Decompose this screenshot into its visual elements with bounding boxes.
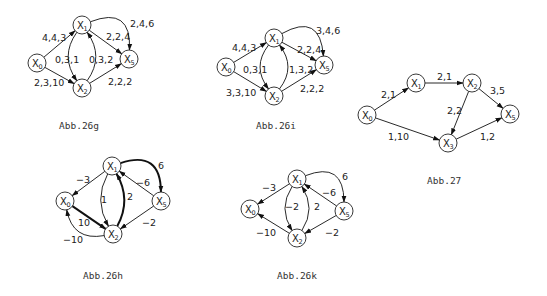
node-x0: X0: [217, 58, 235, 76]
edge-weight-label: 2,2,2: [300, 83, 324, 94]
node-subscript: 5: [512, 114, 516, 122]
edge-weight-label: 2,2,4: [297, 44, 321, 55]
edge-weight-label: 0,3,1: [243, 64, 267, 75]
node-x0: X0: [28, 54, 46, 72]
node-x0: X0: [56, 192, 74, 210]
node-x1: X1: [103, 157, 121, 175]
figure-abb26h: −310−1012−6−26X0X1X2X5Abb.26h: [56, 157, 170, 281]
node-x1: X1: [407, 74, 425, 92]
node-subscript: 0: [67, 201, 71, 209]
edge-weight-label: 3,3,10: [226, 87, 256, 98]
node-x3: X3: [439, 134, 457, 152]
node-subscript: 0: [369, 115, 373, 123]
edge-weight-label: −6: [136, 177, 150, 188]
node-subscript: 1: [276, 38, 280, 46]
edge-weight-label: −10: [63, 234, 83, 245]
figure-caption: Abb.26k: [277, 270, 317, 281]
edge-weight-label: 4,4,3: [232, 42, 256, 53]
node-x5: X5: [120, 50, 138, 68]
node-x5: X5: [501, 105, 519, 123]
edge-weight-label: −6: [322, 187, 336, 198]
edge-weight-label: 1,3,2: [289, 64, 313, 75]
node-subscript: 0: [39, 63, 43, 71]
node-x1: X1: [73, 16, 91, 34]
node-subscript: 5: [326, 65, 330, 73]
node-subscript: 2: [474, 83, 478, 91]
node-subscript: 0: [228, 67, 232, 75]
edge-weight-label: 0,3,2: [89, 54, 113, 65]
node-x1: X1: [265, 29, 283, 47]
figure-caption: Abb.26g: [59, 120, 99, 131]
edge-weight-label: 2,2: [447, 105, 462, 116]
node-x5: X5: [315, 56, 333, 74]
figure-abb26i: 4,4,33,3,100,3,11,3,22,2,42,2,23,4,6X0X1…: [217, 25, 340, 131]
node-subscript: 5: [163, 201, 167, 209]
figure-caption: Abb.26h: [83, 270, 123, 281]
node-subscript: 1: [299, 179, 303, 187]
edge-x2-to-x1: [280, 45, 288, 89]
node-x2: X2: [288, 229, 306, 247]
edge-weight-label: 4,4,3: [42, 32, 66, 43]
edge-x2-to-x1: [302, 187, 309, 231]
edge-weight-label: 0,3,1: [55, 54, 79, 65]
edge-weight-label: 2: [127, 191, 133, 202]
node-subscript: 3: [450, 143, 454, 151]
edge-weight-label: 2: [314, 201, 320, 212]
node-x5: X5: [152, 192, 170, 210]
node-x1: X1: [288, 170, 306, 188]
node-subscript: 2: [115, 234, 119, 242]
edge-weight-label: 6: [158, 160, 164, 171]
node-subscript: 2: [276, 96, 280, 104]
edge-weight-label: 2,2,2: [108, 76, 132, 87]
node-x2: X2: [463, 74, 481, 92]
figure-abb26g: 4,4,32,3,100,3,10,3,22,2,42,2,22,4,6X0X1…: [28, 16, 154, 131]
edge-weight-label: 2,1: [437, 71, 452, 82]
edge-weight-label: 2,4,6: [130, 18, 154, 29]
node-subscript: 1: [418, 83, 422, 91]
figures-group: 4,4,32,3,100,3,10,3,22,2,42,2,22,4,6X0X1…: [28, 16, 519, 281]
node-x0: X0: [241, 200, 259, 218]
network-diagrams-canvas: 4,4,32,3,100,3,10,3,22,2,42,2,22,4,6X0X1…: [0, 0, 547, 296]
figure-caption: Abb.26i: [256, 120, 296, 131]
edge-weight-label: 1,10: [388, 131, 409, 142]
edge-weight-label: 2,2,4: [106, 31, 130, 42]
node-subscript: 5: [131, 59, 135, 67]
edge-weight-label: −2: [285, 201, 299, 212]
node-subscript: 0: [252, 209, 256, 217]
node-x5: X5: [335, 202, 353, 220]
node-subscript: 5: [346, 211, 350, 219]
edge-weight-label: 10: [78, 217, 90, 228]
edge-weight-label: −10: [256, 227, 276, 238]
node-x2: X2: [265, 87, 283, 105]
node-subscript: 2: [84, 88, 88, 96]
node-x0: X0: [358, 106, 376, 124]
edge-weight-label: 6: [342, 171, 348, 182]
edge-weight-label: −3: [262, 182, 276, 193]
edge-weight-label: −2: [325, 227, 339, 238]
node-subscript: 1: [84, 25, 88, 33]
edge-x2-to-x1: [117, 174, 125, 226]
node-subscript: 1: [114, 166, 118, 174]
edge-weight-label: −3: [76, 174, 90, 185]
edge-weight-label: 1,2: [480, 131, 495, 142]
node-x2: X2: [104, 225, 122, 243]
node-x2: X2: [73, 79, 91, 97]
edge-weight-label: −2: [142, 217, 156, 228]
edge-weight-label: 3,5: [490, 85, 505, 96]
figure-caption: Abb.27: [427, 175, 461, 186]
figure-abb26k: −3−10−22−6−26X0X1X2X5Abb.26k: [241, 170, 353, 281]
edge-weight-label: 3,4,6: [316, 25, 340, 36]
figure-abb27: 2,12,13,52,21,101,2X0X1X2X3X5Abb.27: [358, 71, 519, 186]
edge-weight-label: 1: [101, 194, 107, 205]
edge-weight-label: 2,1: [381, 89, 396, 100]
edge-weight-label: 2,3,10: [34, 77, 64, 88]
node-subscript: 2: [299, 238, 303, 246]
